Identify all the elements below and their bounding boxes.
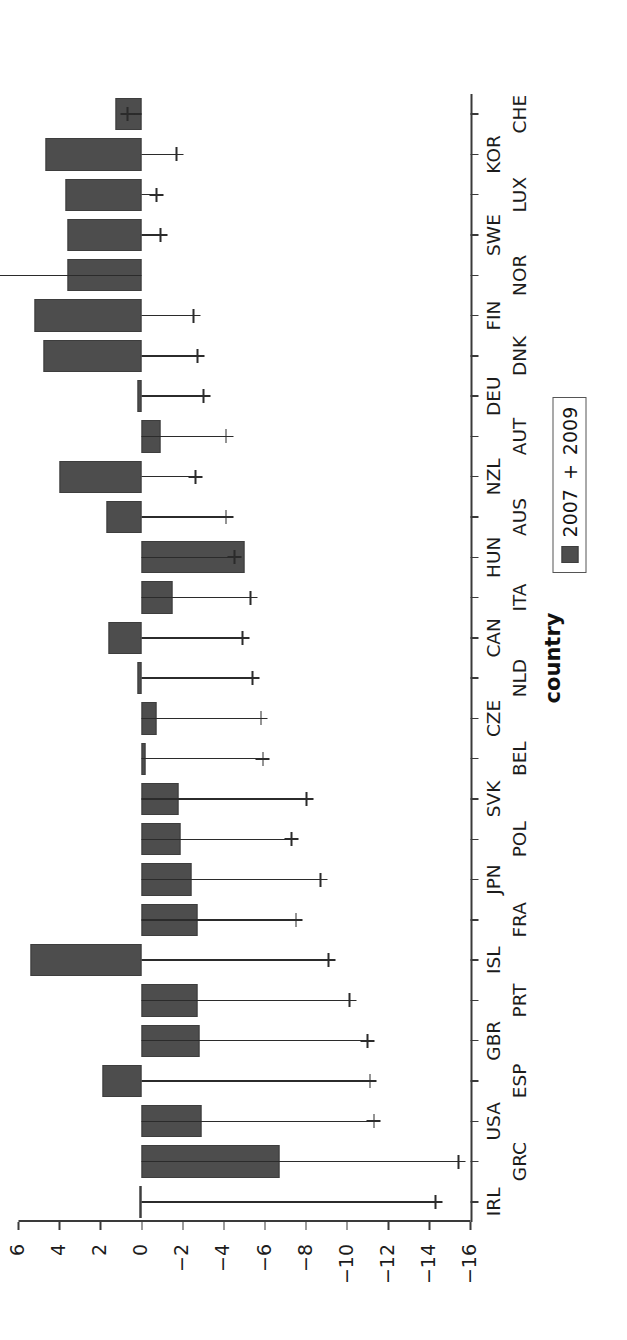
bar-isl: [30, 944, 141, 976]
marker-stem: [141, 798, 305, 799]
bar-deu: [137, 380, 141, 412]
category-label-dnk: DNK: [508, 328, 529, 384]
marker-plus-vertical: [428, 1201, 442, 1203]
category-axis-tick: [470, 1040, 478, 1041]
marker-plus-vertical: [245, 677, 259, 679]
legend-label-2009: 2009: [558, 407, 580, 455]
marker-stem: [141, 1161, 457, 1162]
marker-plus-vertical: [190, 355, 204, 357]
marker-stem: [141, 1040, 367, 1041]
category-label-deu: DEU: [482, 368, 503, 424]
marker-stem: [141, 1201, 435, 1202]
category-axis-tick: [470, 395, 478, 396]
marker-stem: [141, 1080, 369, 1081]
marker-plus-vertical: [120, 113, 134, 115]
bar-kor: [45, 138, 142, 170]
category-label-nzl: NZL: [482, 449, 503, 505]
category-axis-tick: [470, 758, 478, 759]
category-label-aut: AUT: [508, 408, 529, 464]
category-axis-tick: [470, 154, 478, 155]
category-label-cze: CZE: [482, 690, 503, 746]
category-label-hun: HUN: [482, 529, 503, 585]
marker-stem: [141, 718, 260, 719]
category-label-nor: NOR: [508, 247, 529, 303]
category-label-swe: SWE: [482, 207, 503, 263]
marker-plus-vertical: [219, 516, 233, 518]
marker-plus-vertical: [451, 1161, 465, 1163]
marker-plus-vertical: [186, 315, 200, 317]
marker-stem: [141, 839, 291, 840]
category-axis-tick: [470, 677, 478, 678]
marker-plus-vertical: [188, 476, 202, 478]
value-axis-tick: [17, 1222, 18, 1230]
category-label-irl: IRL: [482, 1174, 503, 1230]
category-axis-tick: [470, 1201, 478, 1202]
bar-aus: [106, 501, 141, 533]
chart-figure: 6420−2−4−6−8−10−12−14−16 IRLGRCUSAESPGBR…: [0, 0, 627, 1340]
value-axis-tick-label: −16: [457, 1244, 479, 1340]
category-axis-tick: [470, 1161, 478, 1162]
value-axis-tick: [428, 1222, 429, 1230]
category-axis-tick: [470, 476, 478, 477]
value-axis-tick: [387, 1222, 388, 1230]
value-axis-tick-label: −8: [293, 1244, 315, 1340]
category-label-grc: GRC: [508, 1134, 529, 1190]
marker-stem: [141, 678, 252, 679]
bar-dnk: [43, 340, 142, 372]
category-axis-tick: [470, 879, 478, 880]
marker-plus-vertical: [362, 1080, 376, 1082]
category-axis-tick: [470, 355, 478, 356]
marker-plus-vertical: [227, 556, 241, 558]
category-axis-tick: [470, 919, 478, 920]
marker-plus-vertical: [284, 838, 298, 840]
bar-nld: [137, 662, 141, 694]
category-label-isl: ISL: [482, 932, 503, 988]
marker-stem: [141, 355, 196, 356]
marker-plus-vertical: [253, 718, 267, 720]
value-axis-tick: [58, 1222, 59, 1230]
category-label-svk: SVK: [482, 771, 503, 827]
bar-fin: [34, 299, 141, 331]
value-axis-tick-label: 0: [128, 1244, 150, 1340]
value-axis-tick-label: −4: [210, 1244, 232, 1340]
marker-plus-vertical: [342, 1000, 356, 1002]
category-label-jpn: JPN: [482, 852, 503, 908]
marker-plus-vertical: [149, 194, 163, 196]
marker-plus-vertical: [196, 395, 210, 397]
marker-stem: [141, 396, 203, 397]
bar-esp: [102, 1065, 141, 1097]
value-axis-line: [18, 1220, 470, 1222]
marker-stem: [141, 919, 295, 920]
marker-plus-vertical: [321, 959, 335, 961]
marker-plus-vertical: [219, 436, 233, 438]
value-axis-tick-label: 2: [87, 1244, 109, 1340]
value-axis-tick-label: −6: [252, 1244, 274, 1340]
category-axis-tick: [470, 315, 478, 316]
category-label-pol: POL: [508, 811, 529, 867]
category-label-fra: FRA: [508, 892, 529, 948]
legend-label-2007: 2007: [558, 489, 580, 537]
category-label-esp: ESP: [508, 1053, 529, 1109]
category-axis-tick: [470, 1080, 478, 1081]
marker-stem: [141, 1121, 373, 1122]
legend-swatch-2007: [561, 546, 578, 563]
marker-plus-vertical: [299, 798, 313, 800]
chart-legend: 2007+2009: [552, 397, 586, 574]
category-label-kor: KOR: [482, 126, 503, 182]
x-axis-title: country: [540, 613, 564, 704]
marker-stem: [141, 637, 242, 638]
marker-plus-vertical: [153, 234, 167, 236]
category-axis-tick: [470, 557, 478, 558]
marker-stem: [141, 436, 225, 437]
category-label-lux: LUX: [508, 167, 529, 223]
category-axis-tick: [470, 1000, 478, 1001]
marker-plus-vertical: [255, 758, 269, 760]
value-axis-tick: [305, 1222, 306, 1230]
category-axis-tick: [470, 516, 478, 517]
category-axis-tick: [470, 194, 478, 195]
value-axis-tick-label: 4: [46, 1244, 68, 1340]
bar-swe: [67, 219, 141, 251]
value-axis-tick: [141, 1222, 142, 1230]
marker-stem: [141, 315, 192, 316]
value-axis-tick: [469, 1222, 470, 1230]
